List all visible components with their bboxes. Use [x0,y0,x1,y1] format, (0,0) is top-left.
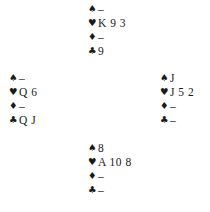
east-diamonds-row: ♦ – [160,99,194,113]
south-hearts-row: ♥ A 10 8 [88,155,132,169]
east-spades-row: ♠ J [160,71,194,85]
diamond-icon: ♦ [88,30,98,44]
north-hearts-row: ♥ K 9 3 [88,16,126,30]
spade-icon: ♠ [160,71,170,85]
north-spades-cards: – [98,2,104,16]
south-clubs-row: ♣ – [88,183,132,197]
diamond-icon: ♦ [88,169,98,183]
west-diamonds-cards: – [19,99,25,113]
south-spades-row: ♠ 8 [88,141,132,155]
north-clubs-row: ♣ 9 [88,44,126,58]
west-clubs-row: ♣ Q J [9,113,37,127]
west-clubs-cards: Q J [19,113,36,127]
south-clubs-cards: – [98,183,104,197]
south-hearts-cards: A 10 8 [98,155,132,169]
south-diamonds-cards: – [98,169,104,183]
spade-icon: ♠ [9,71,19,85]
west-hearts-cards: Q 6 [19,85,37,99]
north-hand: ♠ – ♥ K 9 3 ♦ – ♣ 9 [88,2,126,58]
west-hand: ♠ – ♥ Q 6 ♦ – ♣ Q J [9,71,37,127]
north-diamonds-row: ♦ – [88,30,126,44]
diamond-icon: ♦ [9,99,19,113]
south-diamonds-row: ♦ – [88,169,132,183]
club-icon: ♣ [88,44,98,58]
east-hearts-row: ♥ J 5 2 [160,85,194,99]
spade-icon: ♠ [88,141,98,155]
east-clubs-row: ♣ – [160,113,194,127]
spade-icon: ♠ [88,2,98,16]
west-diamonds-row: ♦ – [9,99,37,113]
east-diamonds-cards: – [170,99,176,113]
north-hearts-cards: K 9 3 [98,16,126,30]
club-icon: ♣ [88,183,98,197]
east-clubs-cards: – [170,113,176,127]
club-icon: ♣ [160,113,170,127]
south-hand: ♠ 8 ♥ A 10 8 ♦ – ♣ – [88,141,132,197]
heart-icon: ♥ [88,155,98,169]
heart-icon: ♥ [88,16,98,30]
diamond-icon: ♦ [160,99,170,113]
club-icon: ♣ [9,113,19,127]
north-clubs-cards: 9 [98,44,104,58]
east-hearts-cards: J 5 2 [170,85,194,99]
heart-icon: ♥ [160,85,170,99]
north-diamonds-cards: – [98,30,104,44]
heart-icon: ♥ [9,85,19,99]
west-spades-cards: – [19,71,25,85]
east-spades-cards: J [170,71,175,85]
west-spades-row: ♠ – [9,71,37,85]
north-spades-row: ♠ – [88,2,126,16]
east-hand: ♠ J ♥ J 5 2 ♦ – ♣ – [160,71,194,127]
west-hearts-row: ♥ Q 6 [9,85,37,99]
south-spades-cards: 8 [98,141,104,155]
